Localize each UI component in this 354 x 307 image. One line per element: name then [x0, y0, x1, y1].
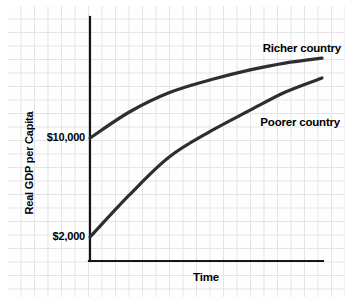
- gdp-convergence-chart: Real GDP per Capita $10,000 $2,000 Riche…: [0, 0, 354, 307]
- y-axis-title: Real GDP per Capita: [23, 112, 35, 215]
- richer-country-label: Richer country: [263, 42, 341, 54]
- poorer-country-curve: [90, 78, 322, 237]
- y-tick-2000: $2,000: [18, 230, 85, 242]
- x-axis-title: Time: [193, 271, 219, 283]
- poorer-country-label: Poorer country: [260, 116, 340, 128]
- y-tick-10000: $10,000: [18, 131, 85, 143]
